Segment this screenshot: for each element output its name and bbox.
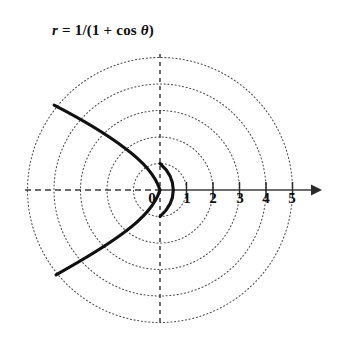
equation-close-paren: ) [149, 22, 154, 38]
axis-label-2: 2 [209, 190, 217, 207]
polar-plot-figure: r = 1/(1 + cos θ) 0 1 2 3 4 5 [0, 0, 338, 346]
equation-theta-symbol: θ [141, 22, 149, 38]
equation-title: r = 1/(1 + cos θ) [52, 22, 154, 39]
axis-label-0: 0 [148, 190, 156, 207]
axis-label-1: 1 [183, 190, 191, 207]
axis-label-5: 5 [288, 190, 296, 207]
axis-label-4: 4 [262, 190, 270, 207]
polar-plot-canvas [0, 0, 338, 346]
axis-label-3: 3 [236, 190, 244, 207]
equation-body: = 1/(1 + cos [58, 22, 141, 38]
axis-arrow-icon [311, 184, 322, 195]
